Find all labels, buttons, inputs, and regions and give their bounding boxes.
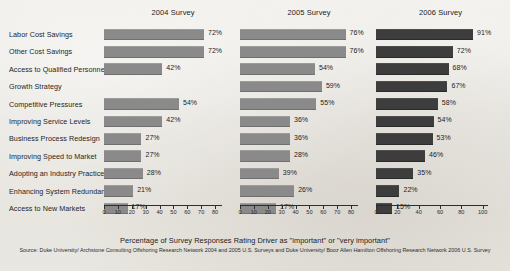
bar-row: 54% — [376, 113, 502, 130]
axis-line — [240, 205, 358, 206]
bar-value-label: 27% — [145, 134, 159, 141]
bar-row: 36% — [240, 130, 376, 147]
bar-row: 54% — [104, 96, 240, 113]
axis-tick — [268, 205, 269, 209]
grouped-bar-chart: 2004 Survey 2005 Survey 2006 Survey Labo… — [0, 0, 510, 271]
bar-row: 42% — [104, 61, 240, 78]
axis-tick — [104, 205, 105, 209]
axis-tick-label: 30 — [279, 209, 285, 215]
bar-value-label: 76% — [350, 29, 364, 36]
bar-value-label: 68% — [453, 64, 467, 71]
axis-line — [376, 205, 488, 206]
bar-value-label: 54% — [438, 116, 452, 123]
source-note: Source: Duke University/ Archstone Consu… — [0, 247, 510, 255]
bar-value-label: 28% — [147, 169, 161, 176]
axis-tick — [215, 205, 216, 209]
category-axis-labels: Labor Cost SavingsOther Cost SavingsAcce… — [0, 26, 104, 217]
panel-title-2005: 2005 Survey — [243, 8, 375, 17]
bar — [104, 46, 204, 58]
category-label: Competitive Pressures — [0, 96, 104, 113]
axis-tick-label: 50 — [306, 209, 312, 215]
axis-tick — [440, 205, 441, 209]
bar-value-label: 46% — [429, 151, 443, 158]
bar-row: 42% — [104, 113, 240, 130]
panel-2004: 72%72%42%54%42%27%27%28%21%17% 010203040… — [104, 26, 240, 217]
axis-tick-label: 80 — [348, 209, 354, 215]
bar — [376, 185, 399, 197]
category-label: Access to Qualified Personnel — [0, 61, 104, 78]
axis-tick-label: 40 — [416, 209, 422, 215]
axis-tick-label: 80 — [212, 209, 218, 215]
bar-rows-2005: 76%76%54%59%55%36%36%28%39%26%17% — [240, 26, 376, 217]
axis-tick — [397, 205, 398, 209]
bar-row: 72% — [104, 26, 240, 43]
bar-value-label: 36% — [294, 116, 308, 123]
bar-row: 36% — [240, 113, 376, 130]
axis-tick-label: 10 — [115, 209, 121, 215]
bar-row: 27% — [104, 148, 240, 165]
bar — [240, 116, 290, 128]
panel-title-2004: 2004 Survey — [107, 8, 239, 17]
bar — [376, 116, 434, 128]
category-label: Labor Cost Savings — [0, 26, 104, 43]
axis-tick-label: 0 — [102, 209, 105, 215]
bar-value-label: 72% — [457, 47, 471, 54]
axis-tick — [254, 205, 255, 209]
axis-tick — [118, 205, 119, 209]
axis-tick-label: 60 — [437, 209, 443, 215]
axis-tick — [309, 205, 310, 209]
bar — [240, 150, 290, 162]
bar-row: 39% — [240, 165, 376, 182]
bar-value-label: 21% — [137, 186, 151, 193]
category-label: Improving Speed to Market — [0, 148, 104, 165]
axis-tick-label: 50 — [170, 209, 176, 215]
bar-row: 67% — [376, 78, 502, 95]
bar-value-label: 72% — [208, 47, 222, 54]
bar-value-label: 91% — [477, 29, 491, 36]
bar-row: 54% — [240, 61, 376, 78]
bar — [240, 29, 346, 41]
axis-tick — [323, 205, 324, 209]
bar-value-label: 36% — [294, 134, 308, 141]
panel-headers: 2004 Survey 2005 Survey 2006 Survey — [0, 8, 510, 22]
bar — [376, 98, 438, 110]
axis-tick — [160, 205, 161, 209]
bar — [376, 46, 453, 58]
bar — [240, 81, 322, 93]
bar-value-label: 35% — [417, 169, 431, 176]
axis-tick-label: 10 — [251, 209, 257, 215]
bar-row: 76% — [240, 43, 376, 60]
bar-value-label: 54% — [319, 64, 333, 71]
axis-tick-label: 80 — [458, 209, 464, 215]
category-label: Business Process Redesign — [0, 130, 104, 147]
bar-row: 26% — [240, 183, 376, 200]
bar-value-label: 76% — [350, 47, 364, 54]
category-label: Growth Strategy — [0, 78, 104, 95]
axis-tick — [187, 205, 188, 209]
category-label: Adopting an Industry Practice — [0, 165, 104, 182]
bar-value-label: 72% — [208, 29, 222, 36]
bar — [240, 98, 316, 110]
bar-row: 76% — [240, 26, 376, 43]
axis-tick — [132, 205, 133, 209]
bar-value-label: 54% — [183, 99, 197, 106]
axis-tick-label: 0 — [238, 209, 241, 215]
axis-tick — [173, 205, 174, 209]
bar — [376, 133, 433, 145]
axis-tick — [419, 205, 420, 209]
bar — [104, 29, 204, 41]
axis-tick — [282, 205, 283, 209]
axis-tick-label: 70 — [334, 209, 340, 215]
bar-value-label: 67% — [451, 82, 465, 89]
bar — [104, 98, 179, 110]
bar — [240, 46, 346, 58]
axis-tick-label: 20 — [394, 209, 400, 215]
value-axis-2006: 020406080100 — [376, 205, 502, 217]
bar — [376, 81, 447, 93]
bar-row: 28% — [104, 165, 240, 182]
bar-row: 91% — [376, 26, 502, 43]
bar-row: 58% — [376, 96, 502, 113]
bar-value-label: 26% — [298, 186, 312, 193]
panel-title-2006: 2006 Survey — [378, 8, 503, 17]
axis-tick-label: 60 — [184, 209, 190, 215]
